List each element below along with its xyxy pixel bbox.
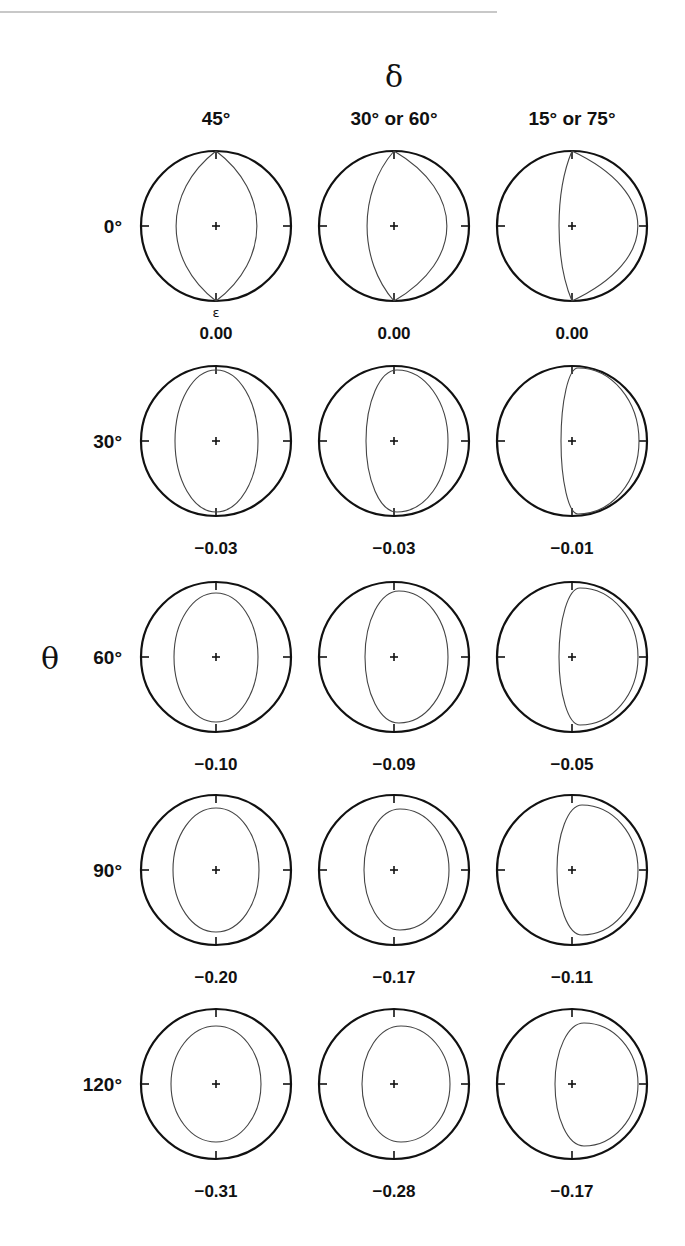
delta-axis-symbol: δ	[385, 59, 403, 94]
value-r0-c1: 0.00	[377, 324, 410, 343]
stereonet-r4-c0	[141, 1009, 291, 1159]
stereonet-r2-c1	[319, 582, 469, 732]
value-r2-c2: −0.05	[550, 755, 593, 774]
value-r1-c1: −0.03	[372, 539, 415, 558]
value-r1-c0: −0.03	[194, 539, 237, 558]
row-label-0: 0°	[104, 216, 122, 237]
row-label-90: 90°	[93, 860, 122, 881]
value-r2-c1: −0.09	[372, 755, 415, 774]
great-circle-curve	[362, 1026, 450, 1142]
great-circle-curve	[555, 1023, 638, 1146]
column-header-15-or-75: 15° or 75°	[528, 108, 615, 129]
great-circle-curve	[365, 591, 448, 723]
great-circle-curve	[364, 809, 449, 930]
value-r0-c2: 0.00	[555, 324, 588, 343]
value-r3-c2: −0.11	[551, 968, 593, 987]
row-label-30: 30°	[93, 431, 122, 452]
value-r4-c0: −0.31	[194, 1182, 237, 1201]
value-r3-c1: −0.17	[372, 968, 415, 987]
value-r3-c0: −0.20	[194, 968, 237, 987]
stereonet-r4-c2	[497, 1009, 647, 1159]
great-circle-curve	[367, 151, 447, 301]
value-labels: 0.00 0.00 0.00 −0.03 −0.03 −0.01 −0.10 −…	[194, 324, 593, 1201]
value-r4-c2: −0.17	[550, 1182, 593, 1201]
theta-axis-symbol: θ	[41, 641, 59, 676]
stereonet-r0-c0	[141, 151, 291, 301]
stereonet-r1-c1	[319, 366, 469, 516]
stereonet-r1-c2	[497, 366, 647, 516]
stereonet-r2-c2	[497, 582, 647, 732]
stereonet-r0-c1	[319, 151, 469, 301]
stereonet-r2-c0	[141, 582, 291, 732]
stereonet-r3-c0	[141, 795, 291, 945]
stereonet-r1-c0	[141, 366, 291, 516]
column-header-45: 45°	[202, 108, 231, 129]
column-header-30-or-60: 30° or 60°	[350, 108, 437, 129]
value-r4-c1: −0.28	[372, 1182, 415, 1201]
stereonet-r3-c1	[319, 795, 469, 945]
row-label-60: 60°	[93, 647, 122, 668]
stereonet-r0-c2	[497, 151, 647, 301]
value-r2-c0: −0.10	[194, 755, 237, 774]
row-label-120: 120°	[83, 1074, 122, 1095]
value-r1-c2: −0.01	[550, 539, 593, 558]
stereonet-r3-c2	[497, 795, 647, 945]
stereonet-grid-figure: δ θ 45° 30° or 60° 15° or 75° 0° 30° 60°…	[0, 0, 685, 1246]
stereonet-r4-c1	[319, 1009, 469, 1159]
great-circle-curve	[366, 370, 448, 512]
value-r0-c0: 0.00	[199, 324, 232, 343]
cells-group	[141, 151, 647, 1159]
epsilon-label: ε	[212, 305, 219, 320]
